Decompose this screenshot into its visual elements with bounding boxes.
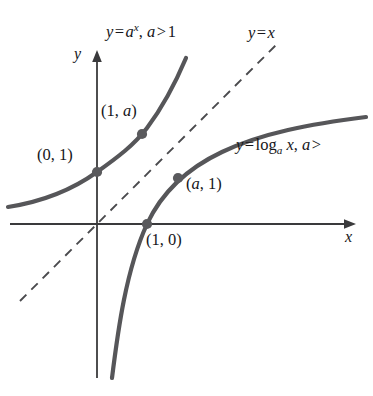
point-marker-1-0 bbox=[142, 219, 152, 229]
logarithmic-curve-label: y=loga x, a> bbox=[236, 137, 323, 154]
point-1-a-value: a bbox=[123, 101, 131, 120]
log-label-fn-sub: a bbox=[277, 144, 283, 156]
log-label-comma: , bbox=[294, 135, 298, 154]
exponential-curve-label: y=ax, a>1 bbox=[106, 24, 176, 41]
y-axis-label: y bbox=[74, 45, 81, 63]
exp-label-condition-value: 1 bbox=[168, 22, 176, 41]
log-label-arg: x bbox=[286, 135, 293, 154]
point-1-0-open: (1, bbox=[146, 230, 168, 249]
identity-label-rhs: x bbox=[268, 23, 275, 42]
point-label-1-a: (1, a) bbox=[101, 103, 137, 120]
point-label-1-0: (1, 0) bbox=[146, 232, 182, 249]
log-label-condition-op: > bbox=[310, 135, 322, 154]
point-0-1-open: (0, bbox=[37, 145, 59, 164]
figure-canvas bbox=[0, 0, 373, 396]
log-label-fn: log bbox=[256, 135, 277, 154]
point-a-1-close: , 1) bbox=[200, 174, 222, 193]
y-axis-arrowhead bbox=[92, 50, 102, 62]
math-figure: y=ax, a>1 y=x y=loga x, a> y x (0, 1) (1… bbox=[0, 0, 373, 396]
x-axis bbox=[10, 219, 356, 229]
point-label-0-1: (0, 1) bbox=[37, 147, 73, 164]
point-marker-0-1 bbox=[92, 167, 102, 177]
point-1-a-open: (1, bbox=[101, 101, 123, 120]
identity-line-y-equals-x bbox=[20, 45, 276, 301]
point-label-a-1: (a, 1) bbox=[186, 176, 222, 193]
log-label-eq: = bbox=[243, 135, 255, 154]
x-axis-label: x bbox=[345, 228, 352, 246]
exp-label-eq: = bbox=[113, 22, 125, 41]
point-0-1-value: 1 bbox=[59, 145, 67, 164]
point-1-0-close: ) bbox=[176, 230, 182, 249]
exp-label-base: a bbox=[126, 22, 134, 41]
exp-label-comma: , bbox=[139, 22, 143, 41]
identity-label-eq: = bbox=[255, 23, 267, 42]
point-a-1-value: a bbox=[192, 174, 200, 193]
point-1-a-close: ) bbox=[131, 101, 137, 120]
point-marker-1-a bbox=[137, 129, 147, 139]
point-marker-a-1 bbox=[173, 173, 183, 183]
exp-label-condition-op: > bbox=[155, 22, 167, 41]
y-axis bbox=[92, 50, 102, 378]
point-0-1-close: ) bbox=[67, 145, 73, 164]
identity-line-label: y=x bbox=[248, 25, 275, 42]
point-1-0-value: 0 bbox=[168, 230, 176, 249]
